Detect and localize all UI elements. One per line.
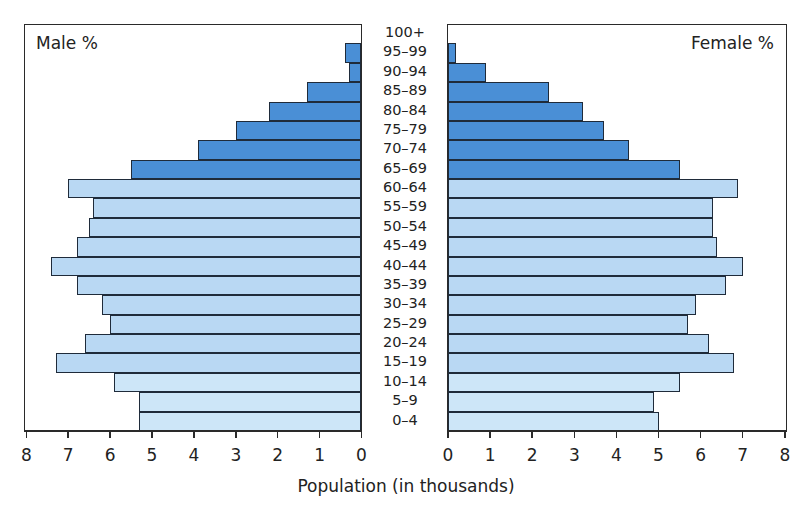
male-bar-50–54 [89, 218, 361, 237]
female-bar-70–74 [448, 140, 629, 159]
male-bar-5–9 [139, 392, 361, 411]
x-tick [67, 431, 69, 438]
female-x-tick-label: 0 [433, 445, 463, 465]
male-bar-0–4 [139, 412, 361, 431]
male-x-tick-label: 7 [53, 445, 83, 465]
male-x-tick-label: 5 [137, 445, 167, 465]
male-bar-85–89 [307, 82, 361, 101]
age-group-label: 55–59 [362, 197, 448, 216]
female-bar-10–14 [448, 373, 680, 392]
male-bar-35–39 [77, 276, 362, 295]
female-panel-label: Female % [691, 33, 774, 53]
x-tick [658, 431, 660, 438]
female-bar-15–19 [448, 353, 734, 372]
male-bar-55–59 [93, 198, 361, 217]
x-tick [784, 431, 786, 438]
age-group-label: 45–49 [362, 236, 448, 255]
age-group-label: 85–89 [362, 81, 448, 100]
x-tick [109, 431, 111, 438]
x-tick [151, 431, 153, 438]
male-bar-60–64 [68, 179, 361, 198]
age-group-label: 100+ [362, 23, 448, 42]
age-group-label: 10–14 [362, 372, 448, 391]
x-tick [277, 431, 279, 438]
male-x-tick-label: 2 [263, 445, 293, 465]
x-tick [193, 431, 195, 438]
female-bar-80–84 [448, 102, 583, 121]
x-tick [361, 431, 363, 438]
female-x-tick-label: 1 [475, 445, 505, 465]
x-tick [742, 431, 744, 438]
female-x-tick-label: 8 [770, 445, 800, 465]
male-bar-80–84 [269, 102, 361, 121]
age-group-label: 65–69 [362, 159, 448, 178]
x-tick [531, 431, 533, 438]
male-bar-95–99 [345, 43, 362, 62]
age-group-label: 50–54 [362, 217, 448, 236]
x-tick [26, 431, 28, 438]
x-axis-title: Population (in thousands) [0, 476, 812, 496]
age-group-label: 30–34 [362, 294, 448, 313]
x-tick [489, 431, 491, 438]
age-group-label: 5–9 [362, 391, 448, 410]
female-x-tick-label: 6 [686, 445, 716, 465]
female-bar-75–79 [448, 121, 604, 140]
female-bar-20–24 [448, 334, 709, 353]
age-group-label: 70–74 [362, 139, 448, 158]
female-bar-90–94 [448, 63, 486, 82]
male-bar-25–29 [110, 315, 361, 334]
male-x-tick-label: 6 [95, 445, 125, 465]
age-group-label: 60–64 [362, 178, 448, 197]
female-x-tick-label: 2 [517, 445, 547, 465]
age-group-label: 0–4 [362, 411, 448, 430]
male-bar-20–24 [85, 334, 362, 353]
x-tick [319, 431, 321, 438]
female-x-tick-label: 4 [601, 445, 631, 465]
male-bar-90–94 [349, 63, 362, 82]
x-tick [447, 431, 449, 438]
female-bar-30–34 [448, 295, 696, 314]
male-bar-30–34 [102, 295, 362, 314]
female-x-tick-label: 7 [728, 445, 758, 465]
age-group-label: 80–84 [362, 101, 448, 120]
female-bar-65–69 [448, 160, 680, 179]
age-group-label: 40–44 [362, 256, 448, 275]
age-group-label: 75–79 [362, 120, 448, 139]
male-x-tick-label: 8 [11, 445, 41, 465]
male-bar-65–69 [131, 160, 361, 179]
age-group-label: 20–24 [362, 333, 448, 352]
male-x-tick-label: 1 [305, 445, 335, 465]
male-bar-75–79 [236, 121, 362, 140]
male-bar-70–74 [198, 140, 361, 159]
x-tick [616, 431, 618, 438]
age-group-label: 95–99 [362, 42, 448, 61]
male-bar-45–49 [77, 237, 362, 256]
female-bar-95–99 [448, 43, 456, 62]
female-bar-50–54 [448, 218, 713, 237]
male-x-tick-label: 4 [179, 445, 209, 465]
male-bar-10–14 [114, 373, 361, 392]
male-bar-15–19 [56, 353, 362, 372]
age-group-label: 35–39 [362, 275, 448, 294]
age-group-label: 15–19 [362, 352, 448, 371]
female-bar-45–49 [448, 237, 717, 256]
x-tick [700, 431, 702, 438]
female-x-tick-label: 3 [559, 445, 589, 465]
male-panel-label: Male % [36, 33, 98, 53]
female-bar-55–59 [448, 198, 713, 217]
male-x-tick-label: 3 [221, 445, 251, 465]
female-bar-85–89 [448, 82, 549, 101]
x-tick [574, 431, 576, 438]
female-bar-25–29 [448, 315, 688, 334]
age-group-label: 25–29 [362, 314, 448, 333]
male-bar-40–44 [51, 257, 361, 276]
male-x-tick-label: 0 [347, 445, 377, 465]
female-bar-40–44 [448, 257, 743, 276]
female-bar-35–39 [448, 276, 726, 295]
x-tick [235, 431, 237, 438]
female-bar-0–4 [448, 412, 659, 431]
female-bar-60–64 [448, 179, 738, 198]
female-bar-5–9 [448, 392, 654, 411]
age-group-label: 90–94 [362, 62, 448, 81]
female-x-tick-label: 5 [644, 445, 674, 465]
